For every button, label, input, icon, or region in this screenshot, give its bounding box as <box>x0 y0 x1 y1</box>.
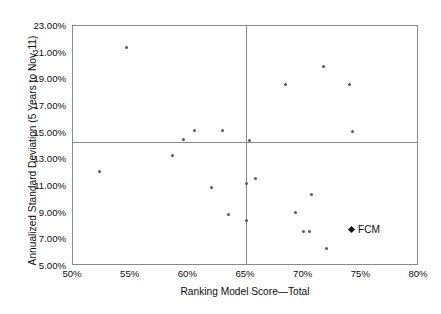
x-axis-tick-label: 60% <box>157 268 217 279</box>
fcm-diamond-icon <box>348 226 355 233</box>
x-axis-tick-label: 70% <box>273 268 333 279</box>
x-axis-tick-label: 75% <box>330 268 390 279</box>
x-axis-title: Ranking Model Score—Total <box>72 286 418 297</box>
x-axis-tick-label: 50% <box>42 268 102 279</box>
x-axis-tick-labels: 50%55%60%65%70%75%80% <box>0 0 441 314</box>
x-axis-tick-label: 65% <box>215 268 275 279</box>
scatter-chart: Annualized Standard Deviation (5 Years t… <box>0 0 441 314</box>
legend: FCM <box>349 224 380 235</box>
x-axis-tick-label: 55% <box>100 268 160 279</box>
x-axis-tick-label: 80% <box>388 268 441 279</box>
legend-item-label: FCM <box>358 224 380 235</box>
